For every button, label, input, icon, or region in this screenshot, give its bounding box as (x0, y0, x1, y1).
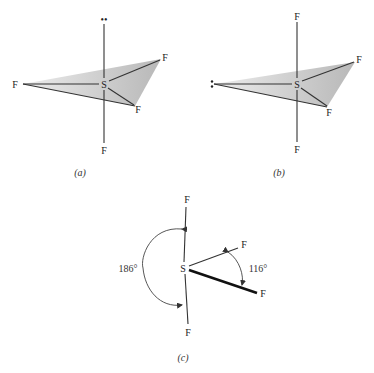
atom-f-bottom: F (185, 327, 191, 338)
atom-s: S (101, 79, 107, 90)
lone-pair-left (211, 80, 213, 87)
atom-s: S (294, 79, 300, 90)
atom-f-upper-right: F (241, 239, 247, 250)
caption-b: (b) (273, 167, 285, 179)
sf4-structure-figure: •• S F F F F (a) F S F F F (b) (0, 0, 374, 373)
bond-bottom (185, 274, 188, 324)
angle-arc-116 (228, 252, 242, 285)
atom-f-lower-right: F (326, 107, 332, 118)
caption-a: (a) (74, 167, 86, 179)
bond-lower-right-wedge (189, 270, 257, 293)
atom-f-top: F (294, 11, 300, 22)
atom-f-upper-right: F (162, 52, 168, 63)
atom-f-left: F (12, 79, 18, 90)
angle-arc-186 (142, 229, 182, 306)
atom-f-lower-right: F (135, 104, 141, 115)
angle-label-186: 186° (119, 263, 138, 274)
panel-c: F S F F F 186° 116° (c) (119, 194, 268, 364)
angle-label-116: 116° (249, 263, 268, 274)
equatorial-plane (23, 59, 161, 106)
atom-f-bottom: F (101, 145, 107, 156)
panel-b: F S F F F (b) (211, 11, 362, 179)
atom-f-upper-right: F (356, 54, 362, 65)
atom-f-top: F (184, 194, 190, 205)
atom-s: S (180, 263, 186, 274)
bond-top (184, 207, 186, 262)
caption-c: (c) (177, 352, 189, 364)
atom-f-bottom: F (294, 144, 300, 155)
bond-upper-right (189, 248, 238, 266)
atom-f-lower-right: F (260, 288, 266, 299)
lone-pair-top: •• (100, 14, 107, 25)
panel-a: •• S F F F F (a) (12, 14, 168, 179)
